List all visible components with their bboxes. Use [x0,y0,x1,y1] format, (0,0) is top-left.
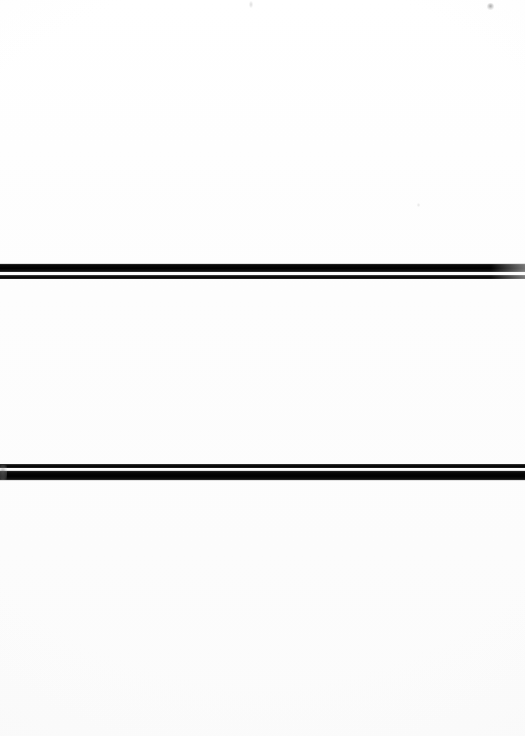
upper-rule-band [0,264,525,281]
lower-rule-band [0,464,525,481]
mid-page-speck-icon [417,203,420,207]
scanned-page [0,0,525,736]
upper-band-thick-rule [0,264,525,272]
top-edge-speck-right-icon [487,3,494,10]
paper-grain-overlay [0,0,525,736]
upper-band-thin-rule [0,275,525,279]
lower-band-thick-rule [0,471,525,480]
top-edge-speck-left-icon [249,1,253,8]
